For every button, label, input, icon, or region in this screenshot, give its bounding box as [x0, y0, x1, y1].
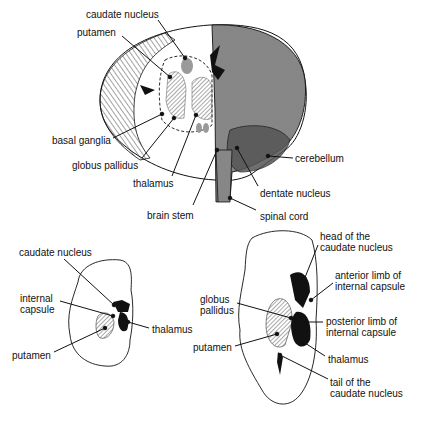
label-internal-capsule: internal capsule	[20, 293, 54, 315]
label-thalamus: thalamus	[133, 178, 174, 189]
pointer-dot	[266, 154, 270, 158]
pointer-dot	[194, 113, 198, 117]
label-thalamus: thalamus	[152, 324, 193, 335]
top-brain-view	[100, 25, 306, 202]
label-caudate-nucleus: caudate nucleus	[86, 9, 159, 20]
pointer-dot	[309, 298, 313, 302]
label-anterior-limb: anterior limb of internal capsule	[335, 270, 405, 292]
label-basal-ganglia: basal ganglia	[52, 135, 111, 146]
label-globus-pallidus: globus pallidus	[200, 294, 234, 316]
pointer-dot	[278, 353, 282, 357]
pointer-dot	[126, 320, 130, 324]
pointer-dot	[228, 196, 232, 200]
pointer-dot	[168, 75, 172, 79]
pointer-dot	[183, 56, 187, 60]
label-dentate-nucleus: dentate nucleus	[260, 188, 331, 199]
label-putamen: putamen	[193, 342, 232, 353]
label-brain-stem: brain stem	[147, 210, 194, 221]
label-cerebellum: cerebellum	[295, 153, 344, 164]
label-spinal-cord: spinal cord	[260, 211, 308, 222]
label-putamen: putamen	[12, 350, 51, 361]
label-head-of-caudate: head of the caudate nucleus	[320, 231, 393, 253]
label-globus-pallidus: globus pallidus	[72, 160, 138, 171]
pointer-dot	[294, 320, 298, 324]
pointer-dot	[298, 288, 302, 292]
pointer-dot	[275, 332, 279, 336]
pointer-dot	[172, 116, 176, 120]
right-coronal-section	[239, 231, 318, 404]
pointer-dot	[303, 341, 307, 345]
pointer-dot	[111, 314, 115, 318]
pointer-dot	[160, 112, 164, 116]
label-posterior-limb: posterior limb of internal capsule	[326, 316, 397, 338]
pointer-dot	[112, 303, 116, 307]
brain-anatomy-figure: caudate nucleusputamenbasal gangliaglobu…	[0, 0, 422, 424]
pointer-dot	[103, 326, 107, 330]
label-putamen: putamen	[77, 27, 116, 38]
pointer-dot	[289, 316, 293, 320]
label-caudate-nucleus: caudate nucleus	[19, 247, 92, 258]
label-thalamus: thalamus	[328, 354, 369, 365]
leader-spinal-cord	[230, 198, 256, 210]
pointer-dot	[215, 148, 219, 152]
pointer-dot	[235, 146, 239, 150]
label-tail-of-caudate: tail of the caudate nucleus	[330, 377, 403, 399]
